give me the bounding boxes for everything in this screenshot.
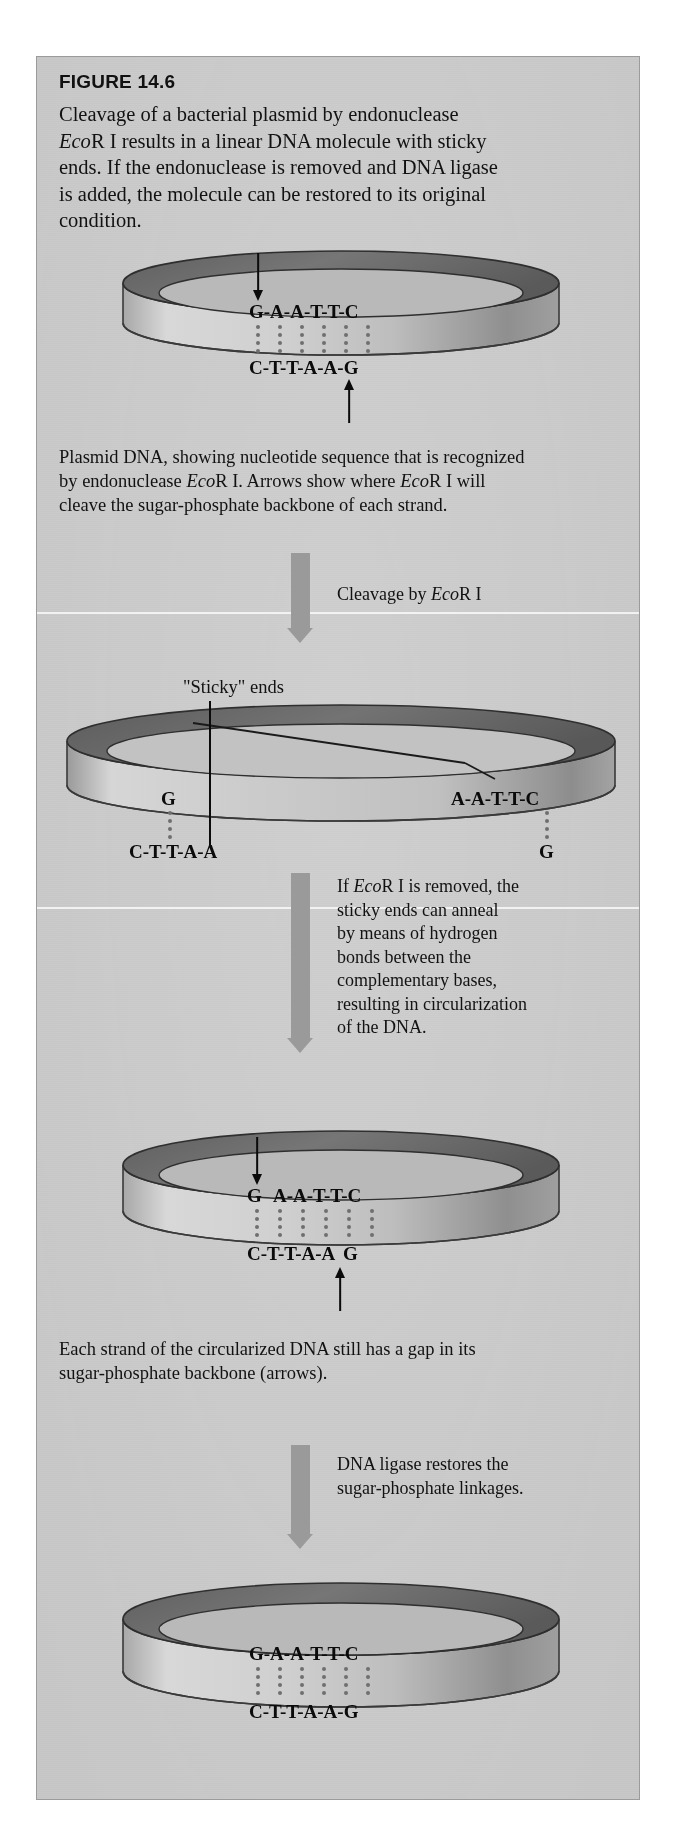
plasmid2-top-right-sequence: A-A-T-T-C — [451, 788, 539, 810]
plasmid-diagram-1: G-A-A-T-T-C C-T-T-A-A-G — [121, 249, 561, 389]
sticky-ends-label: "Sticky" ends — [183, 677, 284, 698]
plasmid3-gap-arrow-down — [251, 1137, 263, 1185]
step1-eco-italic-1: Eco — [186, 471, 215, 491]
plasmid1-cleavage-arrow-up — [343, 379, 355, 423]
step1-eco-italic-2: Eco — [400, 471, 429, 491]
hbond-column — [320, 1209, 331, 1241]
hbond-column — [297, 1209, 308, 1241]
arrow-shaft — [291, 1445, 310, 1534]
figure-panel: FIGURE 14.6 Cleavage of a bacterial plas… — [36, 56, 640, 1800]
hbond-column — [340, 1667, 351, 1699]
figure-number: FIGURE 14.6 — [59, 71, 175, 93]
cleavage-label-a: Cleavage by — [337, 584, 431, 604]
hbond-column — [274, 1209, 285, 1241]
figure-caption: Cleavage of a bacterial plasmid by endon… — [59, 101, 604, 234]
hbond-column — [251, 1209, 262, 1241]
step3-caption: Each strand of the circularized DNA stil… — [59, 1337, 619, 1385]
plasmid3-top-sequence-rest: A-A-T-T-C — [273, 1185, 361, 1207]
plasmid4-top-sequence: G-A-A-T-T-C — [249, 1643, 358, 1665]
caption-line-4: is added, the molecule can be restored t… — [59, 183, 486, 205]
plasmid4-bottom-sequence: C-T-T-A-A-G — [249, 1701, 358, 1723]
step3-caption-line-2: sugar-phosphate backbone (arrows). — [59, 1363, 327, 1383]
hbond-column — [274, 1667, 285, 1699]
plasmid3-top-sequence-gap-base: G — [247, 1185, 262, 1207]
plasmid3-bottom-sequence-gap-base: G — [343, 1243, 358, 1265]
hbond-column — [541, 811, 552, 843]
hbond-column — [274, 325, 285, 357]
plasmid2-bottom-left-sequence: C-T-T-A-A — [129, 841, 217, 863]
anneal-label-4: bonds between the — [337, 947, 471, 967]
plasmid1-bottom-sequence: C-T-T-A-A-G — [249, 357, 358, 379]
anneal-label-eco: Eco — [354, 876, 382, 896]
cleavage-label-eco: Eco — [431, 584, 459, 604]
plasmid4-hydrogen-bonds — [252, 1667, 373, 1699]
anneal-label-7: of the DNA. — [337, 1017, 426, 1037]
hbond-column — [366, 1209, 377, 1241]
plasmid3-gap-arrow-up — [334, 1267, 346, 1311]
step1-caption-line-2b: R I. Arrows show where — [215, 471, 400, 491]
ligase-label-2: sugar-phosphate linkages. — [337, 1478, 524, 1498]
scan-artifact-line — [37, 612, 639, 614]
plasmid2-top-left-sequence: G — [161, 788, 176, 810]
hbond-column — [362, 325, 373, 357]
step3-caption-line-1: Each strand of the circularized DNA stil… — [59, 1339, 476, 1359]
cleavage-label-b: R I — [459, 584, 482, 604]
process-arrow-cleavage — [287, 553, 313, 643]
caption-line-2: R I results in a linear DNA molecule wit… — [91, 130, 487, 152]
hbond-column — [343, 1209, 354, 1241]
plasmid-ring-2 — [65, 701, 617, 851]
caption-line-1: Cleavage of a bacterial plasmid by endon… — [59, 103, 459, 125]
plasmid3-bottom-sequence-first: C-T-T-A-A — [247, 1243, 335, 1265]
process-arrow-ligase-label: DNA ligase restores the sugar-phosphate … — [337, 1453, 607, 1500]
hbond-column — [252, 325, 263, 357]
plasmid2-hydrogen-bonds-right — [541, 811, 552, 843]
anneal-label-6: resulting in circularization — [337, 994, 527, 1014]
anneal-label-2: sticky ends can anneal — [337, 900, 498, 920]
hbond-column — [164, 811, 175, 843]
plasmid1-cleavage-arrow-down — [252, 253, 264, 301]
process-arrow-ligase — [287, 1445, 313, 1549]
hbond-column — [252, 1667, 263, 1699]
step1-caption-line-2c: R I will — [429, 471, 486, 491]
arrow-head — [287, 1534, 313, 1549]
plasmid1-top-sequence: G-A-A-T-T-C — [249, 301, 358, 323]
plasmid-diagram-2: G C-T-T-A-A A-A-T-T-C G — [65, 701, 617, 851]
process-arrow-anneal — [287, 873, 313, 1053]
arrow-head — [287, 628, 313, 643]
process-arrow-anneal-label: If EcoR I is removed, the sticky ends ca… — [337, 875, 607, 1040]
anneal-label-1b: R I is removed, the — [381, 876, 518, 896]
plasmid1-hydrogen-bonds — [252, 325, 373, 357]
plasmid-diagram-4: G-A-A-T-T-C C-T-T-A-A-G — [121, 1581, 561, 1741]
hbond-column — [296, 1667, 307, 1699]
arrow-shaft — [291, 553, 310, 628]
caption-line-5: condition. — [59, 209, 142, 231]
caption-line-3: ends. If the endonuclease is removed and… — [59, 156, 498, 178]
ligase-label-1: DNA ligase restores the — [337, 1454, 508, 1474]
step1-caption-line-3: cleave the sugar-phosphate backbone of e… — [59, 495, 447, 515]
step1-caption: Plasmid DNA, showing nucleotide sequence… — [59, 445, 619, 517]
plasmid-diagram-3: G A-A-T-T-C C-T-T-A-A G — [121, 1129, 561, 1279]
hbond-column — [296, 325, 307, 357]
step1-caption-line-2a: by endonuclease — [59, 471, 186, 491]
arrow-head — [287, 1038, 313, 1053]
process-arrow-cleavage-label: Cleavage by EcoR I — [337, 583, 481, 607]
sticky-ends-leader-line — [209, 701, 211, 846]
anneal-label-5: complementary bases, — [337, 970, 497, 990]
anneal-label-1a: If — [337, 876, 354, 896]
step1-caption-line-1: Plasmid DNA, showing nucleotide sequence… — [59, 447, 524, 467]
plasmid3-hydrogen-bonds — [251, 1209, 377, 1241]
plasmid2-hydrogen-bonds-left — [164, 811, 175, 843]
hbond-column — [318, 1667, 329, 1699]
plasmid2-bottom-right-sequence: G — [539, 841, 554, 863]
hbond-column — [318, 325, 329, 357]
anneal-label-3: by means of hydrogen — [337, 923, 497, 943]
arrow-shaft — [291, 873, 310, 1038]
hbond-column — [340, 325, 351, 357]
caption-eco-italic: Eco — [59, 130, 91, 152]
hbond-column — [362, 1667, 373, 1699]
